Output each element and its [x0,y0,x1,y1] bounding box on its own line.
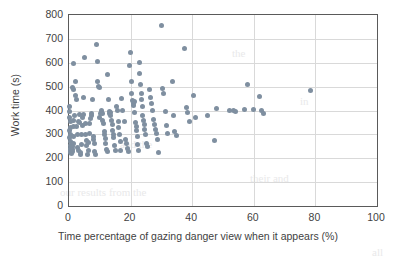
scatter-point [124,141,129,146]
scatter-point [103,141,108,146]
scatter-point [160,86,165,91]
scatter-point [212,138,217,143]
scatter-point [71,61,76,66]
scatter-point [136,148,141,153]
scatter-point [79,142,84,147]
x-axis-title: Time percentage of gazing danger view wh… [0,230,396,242]
y-tick-label: 100 [3,176,63,187]
scatter-point [245,82,250,87]
scatter-point [149,101,154,106]
scatter-point [170,79,175,84]
scatter-point [137,60,142,65]
y-tick-label: 0 [3,200,63,211]
scatter-point [159,23,164,28]
y-tick-label: 800 [3,9,63,20]
x-tick-label: 20 [110,211,150,223]
scatter-point [193,115,198,120]
scatter-point [74,97,79,102]
scatter-point [118,139,123,144]
scatter-point [117,132,122,137]
x-tick-label: 40 [171,211,211,223]
scatter-point [100,111,105,116]
scatter-point [120,108,125,113]
scatter-point [143,132,148,137]
scatter-point [94,42,99,47]
scatter-point [163,109,168,114]
scatter-point [151,117,156,122]
scatter-point [187,119,192,124]
scatter-point [92,141,97,146]
scatter-point [161,91,166,96]
scatter-point [164,123,169,128]
scatter-point [118,148,123,153]
scatter-point [145,144,150,149]
scatter-point [165,131,170,136]
gridline-vertical [192,15,193,206]
scatter-point [119,96,124,101]
scatter-point [261,111,266,116]
scatter-point [105,72,110,77]
scatter-point [106,97,111,102]
scatter-chart: the and the in our results from the thei… [0,0,396,258]
scatter-point [101,121,106,126]
gridline-horizontal [69,182,377,183]
scatter-point [128,50,133,55]
scatter-point [140,104,145,109]
scatter-point [113,148,118,153]
scatter-point [174,133,179,138]
scatter-point [132,99,137,104]
x-tick-label: 80 [294,211,334,223]
scatter-point [308,88,313,93]
scatter-point [81,95,86,100]
x-axis-ticks: 020406080100 [68,211,378,227]
y-tick-label: 700 [3,33,63,44]
x-tick-label: 0 [48,211,88,223]
scatter-point [185,110,190,115]
scatter-point [155,137,160,142]
scatter-point [116,125,121,130]
scatter-point [93,152,98,157]
scatter-point [137,71,142,76]
scatter-point [86,148,91,153]
gridline-horizontal [69,87,377,88]
gridline-vertical [315,15,316,206]
scatter-point [148,95,153,100]
scatter-point [191,93,196,98]
scatter-point [134,128,139,133]
scatter-point [182,46,187,51]
scatter-point [90,97,95,102]
scatter-point [105,149,110,154]
scatter-point [111,135,116,140]
scatter-point [150,108,155,113]
scatter-point [140,113,145,118]
scatter-point [95,79,100,84]
scatter-point [129,79,134,84]
scatter-point [73,79,78,84]
scatter-point [122,119,127,124]
page-bleed-text: all [372,246,383,258]
scatter-point [139,91,144,96]
y-axis-title: Work time (s) [9,45,21,165]
x-tick-label: 100 [356,211,396,223]
scatter-point [154,131,159,136]
scatter-point [116,119,121,124]
scatter-point [129,91,134,96]
scatter-point [135,134,140,139]
scatter-point [147,87,152,92]
scatter-point [135,142,140,147]
scatter-point [171,113,176,118]
scatter-point [132,110,137,115]
scatter-point [70,149,75,154]
scatter-point [95,59,100,64]
scatter-point [97,85,102,90]
scatter-point [110,122,115,127]
gridline-horizontal [69,158,377,159]
scatter-point [233,109,238,114]
scatter-point [112,143,117,148]
scatter-point [205,113,210,118]
scatter-point [71,87,76,92]
x-tick-label: 60 [233,211,273,223]
scatter-point [139,97,144,102]
scatter-point [142,127,147,132]
plot-area [68,14,378,207]
